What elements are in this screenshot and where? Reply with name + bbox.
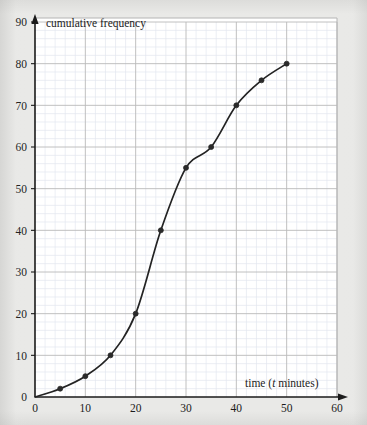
data-point-marker <box>83 374 88 379</box>
data-point-marker <box>158 228 163 233</box>
y-tick-label: 70 <box>16 100 28 112</box>
cumulative-frequency-chart: 0102030405060 0102030405060708090 cumula… <box>0 0 367 425</box>
y-tick-label: 60 <box>16 141 28 153</box>
y-tick-label: 0 <box>21 391 27 403</box>
data-point-marker <box>58 386 63 391</box>
x-axis-tick-labels: 0102030405060 <box>32 402 343 414</box>
y-tick-label: 10 <box>16 350 28 362</box>
data-point-marker <box>133 311 138 316</box>
y-axis-tick-labels: 0102030405060708090 <box>16 16 36 403</box>
x-tick-label: 30 <box>180 402 192 414</box>
y-tick-label: 40 <box>16 225 28 237</box>
x-tick-label: 50 <box>281 402 293 414</box>
data-point-marker <box>234 103 239 108</box>
data-point-marker <box>209 145 214 150</box>
x-axis-label-suffix: minutes) <box>275 377 318 390</box>
data-point-marker <box>284 61 289 66</box>
data-point-marker <box>259 78 264 83</box>
x-axis-label-prefix: time ( <box>245 377 272 390</box>
x-axis-label: time (t minutes) <box>245 377 319 390</box>
x-tick-label: 60 <box>331 402 343 414</box>
y-tick-label: 20 <box>16 308 28 320</box>
x-tick-label: 10 <box>80 402 92 414</box>
x-tick-label: 40 <box>231 402 243 414</box>
y-tick-label: 30 <box>16 266 28 278</box>
x-axis-arrowhead <box>338 393 348 400</box>
y-tick-label: 80 <box>16 58 28 70</box>
data-point-marker <box>108 353 113 358</box>
y-tick-label: 50 <box>16 183 28 195</box>
data-point-marker <box>184 165 189 170</box>
y-axis-label: cumulative frequency <box>46 17 146 30</box>
figure-container: 0102030405060 0102030405060708090 cumula… <box>0 0 367 425</box>
x-tick-label: 0 <box>32 402 38 414</box>
y-tick-label: 90 <box>16 16 28 28</box>
x-tick-label: 20 <box>130 402 142 414</box>
